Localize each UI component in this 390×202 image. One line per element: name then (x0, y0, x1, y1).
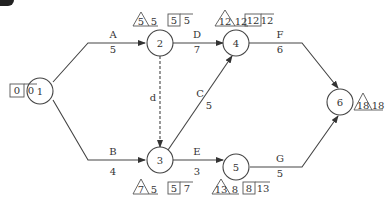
node-5-tri-val: 8 (232, 184, 238, 195)
node-4-label: 4 (233, 38, 239, 49)
activity-d-name: d (150, 92, 157, 103)
node-2-box-b: 5 (184, 15, 190, 26)
activity-F-name: F (277, 29, 284, 40)
activity-C-name: C (196, 88, 204, 99)
node-4-box-b: 12 (261, 15, 274, 26)
node-1-label: 1 (37, 86, 43, 97)
edge-C (168, 56, 232, 150)
node-4-tri: 12 (219, 16, 232, 27)
activity-C-duration: 5 (206, 100, 212, 111)
activity-B-duration: 4 (110, 166, 116, 177)
activity-F-duration: 6 (277, 44, 283, 55)
node-2-tri-val: 5 (151, 16, 157, 27)
activity-D-name: D (193, 29, 201, 40)
activity-G-duration: 5 (277, 168, 283, 179)
activity-A-duration: 5 (110, 44, 116, 55)
edge-F (249, 43, 338, 88)
activity-E-duration: 3 (194, 166, 200, 177)
activity-G-name: G (276, 153, 284, 164)
node-3-box-a: 5 (171, 183, 177, 194)
node-2-label: 2 (157, 38, 163, 49)
node-6-tri: 18 (357, 100, 370, 111)
edge-G (250, 116, 338, 167)
activity-B-name: B (109, 146, 116, 157)
node-3-tri-val: 5 (151, 184, 157, 195)
node-5-tri: 13 (215, 184, 228, 195)
activity-A-name: A (108, 29, 117, 40)
node-5-box-a: 8 (246, 183, 252, 194)
node-3-label: 3 (157, 155, 163, 166)
node-5-box-b: 13 (257, 183, 270, 194)
edge-B (53, 100, 145, 160)
node-6-label: 6 (337, 97, 343, 108)
activity-D-duration: 7 (194, 44, 200, 55)
node-3-tri: 7 (138, 184, 144, 195)
node-4-tri-val: 12 (235, 16, 248, 27)
node-2-box-a: 5 (171, 15, 177, 26)
network-diagram: A 5 B 4 d C 5 D 7 E 3 F 6 G 5 1 2 3 4 5 … (0, 0, 390, 202)
node-3-box-b: 7 (184, 183, 190, 194)
node-6-tri-val: 18 (372, 100, 385, 111)
edge-A (53, 43, 145, 82)
node-2-tri: 5 (138, 16, 144, 27)
node-4-box-a: 12 (247, 15, 260, 26)
activity-E-name: E (193, 146, 200, 157)
node-1-lt: 0 (28, 85, 34, 96)
node-5-label: 5 (233, 162, 239, 173)
node-1-et: 0 (14, 85, 20, 96)
